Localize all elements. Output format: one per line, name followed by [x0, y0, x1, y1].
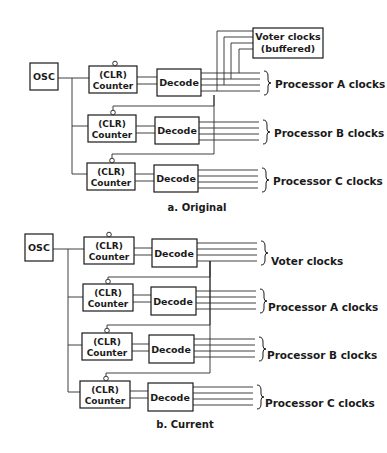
caption-original: a. Original [168, 202, 227, 213]
clr-bubble-2 [111, 110, 116, 115]
voter-tap-lines [217, 31, 253, 91]
brace-proc-c [262, 168, 269, 192]
counter-decode-bus-1 [137, 77, 157, 84]
clr-feedback-2 [113, 95, 214, 110]
counter-decode-bus-2 [133, 295, 151, 302]
counter-label: Counter [91, 178, 132, 188]
output-label-proc-c: Processor C clocks [265, 397, 375, 409]
counter-decode-bus-1 [134, 248, 152, 255]
counter-label-clr: (CLR) [97, 167, 125, 177]
brace-proc-c [257, 385, 264, 409]
clock-distribution-diagram: OSC (CLR) Counter Decode (CLR) Counter D… [0, 0, 387, 453]
counter-label: Counter [92, 130, 133, 140]
diagram-original: OSC (CLR) Counter Decode (CLR) Counter D… [30, 28, 385, 213]
output-label-proc-a: Processor A clocks [268, 301, 378, 313]
counter-decode-bus-3 [135, 174, 154, 181]
osc-label: OSC [33, 71, 55, 82]
voter-box-sublabel: (buffered) [261, 43, 315, 54]
clr-bubble-3 [105, 328, 110, 333]
caption-current: b. Current [156, 419, 214, 430]
proc-c-clock-lines [193, 387, 253, 405]
clr-bubble-1 [113, 61, 118, 66]
counter-label-clr: (CLR) [94, 288, 122, 298]
counter-label-clr: (CLR) [95, 241, 123, 251]
output-label-proc-b: Processor B clocks [274, 127, 384, 139]
proc-a-clock-lines [196, 291, 256, 309]
counter-label: Counter [85, 396, 126, 406]
decode-label: Decode [154, 248, 194, 259]
counter-label: Counter [88, 299, 129, 309]
output-label-proc-c: Processor C clocks [273, 175, 383, 187]
counter-label-clr: (CLR) [98, 119, 126, 129]
output-label-proc-a: Processor A clocks [275, 78, 385, 90]
osc-label: OSC [28, 242, 50, 253]
counter-decode-bus-2 [136, 126, 155, 133]
clr-bubble-2 [106, 279, 111, 284]
brace-voter [261, 241, 268, 265]
clr-bubble-4 [104, 376, 109, 381]
diagram-current: OSC (CLR) Counter Decode (CLR) Counter D… [25, 232, 378, 430]
counter-decode-bus-4 [130, 391, 148, 398]
proc-b-clock-lines [194, 339, 255, 357]
osc-bus [58, 78, 89, 174]
decode-label: Decode [153, 296, 193, 307]
decode-label: Decode [159, 77, 199, 88]
brace-proc-b [259, 337, 266, 361]
counter-decode-bus-3 [132, 344, 149, 351]
counter-label-clr: (CLR) [93, 337, 121, 347]
decode-label: Decode [157, 125, 197, 136]
voter-box-label: Voter clocks [255, 31, 321, 42]
counter-label: Counter [89, 252, 130, 262]
output-label-proc-b: Processor B clocks [267, 349, 377, 361]
counter-label-clr: (CLR) [91, 385, 119, 395]
decode-label: Decode [150, 392, 190, 403]
osc-bus [53, 249, 84, 392]
clr-bubble-3 [110, 158, 115, 163]
decode-label: Decode [156, 173, 196, 184]
brace-proc-a [260, 289, 267, 313]
proc-c-clock-lines [198, 170, 258, 188]
brace-proc-a [264, 71, 271, 95]
counter-label: Counter [87, 348, 128, 358]
counter-label-clr: (CLR) [99, 70, 127, 80]
proc-b-clock-lines [199, 122, 259, 140]
decode-label: Decode [151, 344, 191, 355]
clr-bubble-1 [107, 232, 112, 237]
output-label-voter: Voter clocks [271, 255, 343, 267]
proc-a-clock-lines [201, 73, 260, 91]
brace-proc-b [263, 120, 270, 144]
counter-label: Counter [93, 81, 134, 91]
voter-clock-lines [197, 243, 257, 261]
